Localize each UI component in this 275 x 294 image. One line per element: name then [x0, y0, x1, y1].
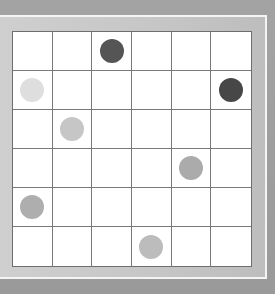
board-cell-r1-c0[interactable]: [13, 71, 53, 110]
board-cell-r2-c4[interactable]: [172, 110, 212, 149]
board-cell-r1-c5[interactable]: [211, 71, 251, 110]
board-cell-r0-c3[interactable]: [132, 32, 172, 71]
board-cell-r4-c2[interactable]: [92, 188, 132, 227]
piece-dark[interactable]: [219, 78, 243, 102]
board-cell-r4-c1[interactable]: [53, 188, 93, 227]
board-cell-r0-c2[interactable]: [92, 32, 132, 71]
piece-medium[interactable]: [179, 156, 203, 180]
board-cell-r0-c0[interactable]: [13, 32, 53, 71]
board-cell-r0-c4[interactable]: [172, 32, 212, 71]
board-cell-r3-c5[interactable]: [211, 149, 251, 188]
board-grid: [13, 32, 251, 266]
board-cell-r3-c3[interactable]: [132, 149, 172, 188]
board-cell-r2-c3[interactable]: [132, 110, 172, 149]
piece-dark[interactable]: [100, 39, 124, 63]
board-cell-r2-c2[interactable]: [92, 110, 132, 149]
piece-medium[interactable]: [20, 195, 44, 219]
game-board: [12, 31, 252, 267]
board-cell-r1-c3[interactable]: [132, 71, 172, 110]
board-cell-r1-c1[interactable]: [53, 71, 93, 110]
board-cell-r2-c5[interactable]: [211, 110, 251, 149]
board-cell-r1-c2[interactable]: [92, 71, 132, 110]
board-cell-r5-c0[interactable]: [13, 227, 53, 266]
board-cell-r2-c1[interactable]: [53, 110, 93, 149]
board-cell-r4-c3[interactable]: [132, 188, 172, 227]
board-cell-r1-c4[interactable]: [172, 71, 212, 110]
board-cell-r5-c2[interactable]: [92, 227, 132, 266]
board-cell-r4-c0[interactable]: [13, 188, 53, 227]
board-cell-r3-c4[interactable]: [172, 149, 212, 188]
board-cell-r2-c0[interactable]: [13, 110, 53, 149]
piece-light[interactable]: [139, 235, 163, 259]
board-cell-r3-c2[interactable]: [92, 149, 132, 188]
board-cell-r0-c5[interactable]: [211, 32, 251, 71]
board-cell-r0-c1[interactable]: [53, 32, 93, 71]
board-cell-r5-c1[interactable]: [53, 227, 93, 266]
board-cell-r4-c4[interactable]: [172, 188, 212, 227]
board-cell-r5-c5[interactable]: [211, 227, 251, 266]
board-cell-r4-c5[interactable]: [211, 188, 251, 227]
piece-light[interactable]: [60, 117, 84, 141]
board-cell-r3-c0[interactable]: [13, 149, 53, 188]
board-cell-r5-c3[interactable]: [132, 227, 172, 266]
board-cell-r5-c4[interactable]: [172, 227, 212, 266]
board-cell-r3-c1[interactable]: [53, 149, 93, 188]
piece-very-light[interactable]: [20, 78, 44, 102]
